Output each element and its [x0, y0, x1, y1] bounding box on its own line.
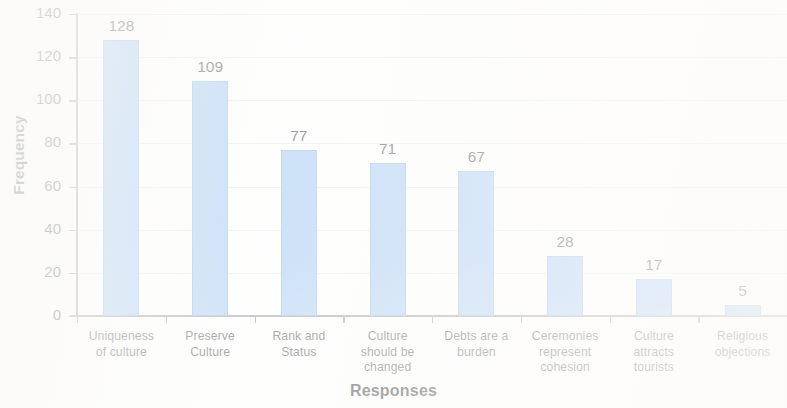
x-category-label-line: Debts are a [432, 329, 521, 345]
bar-fill [282, 151, 316, 315]
bar [103, 40, 139, 316]
y-tick-mark [69, 57, 77, 58]
x-category-label-line: Rank and [255, 329, 344, 345]
x-category-label-line: attracts [610, 345, 699, 361]
y-tick-label: 40 [0, 220, 61, 237]
bar [281, 150, 317, 316]
y-tick-mark [69, 316, 77, 317]
x-tick-mark [343, 316, 344, 323]
y-tick-label: 0 [0, 306, 61, 323]
y-tick-mark [69, 187, 77, 188]
x-category-label: Ceremoniesrepresentcohesion [521, 329, 610, 376]
y-tick-mark [69, 100, 77, 101]
y-tick-mark [69, 14, 77, 15]
bar-fill [104, 41, 138, 315]
bar-value-label: 17 [614, 256, 694, 274]
bar-fill [371, 164, 405, 315]
x-tick-mark [698, 316, 699, 323]
x-category-label-line: cohesion [521, 360, 610, 376]
x-axis-title: Responses [0, 382, 787, 400]
x-tick-mark [255, 316, 256, 323]
x-category-label-line: objections [698, 345, 787, 361]
x-category-label-line: should be [343, 345, 432, 361]
x-category-label-line: Culture [166, 345, 255, 361]
gridline [77, 230, 787, 231]
x-tick-mark [432, 316, 433, 323]
bar-fill [726, 306, 760, 315]
x-category-label-line: Ceremonies [521, 329, 610, 345]
bar [725, 305, 761, 316]
bar [192, 81, 228, 316]
bar-value-label: 109 [170, 58, 250, 76]
bar-fill [193, 82, 227, 315]
bar-fill [637, 280, 671, 315]
x-category-label-line: Status [255, 345, 344, 361]
y-tick-label: 60 [0, 177, 61, 194]
x-category-label: Cultureshould bechanged [343, 329, 432, 376]
x-category-label-line: Culture [343, 329, 432, 345]
x-category-label-line: Preserve [166, 329, 255, 345]
x-category-label: PreserveCulture [166, 329, 255, 360]
bar-chart-figure: Frequency 140120100806040200 12810977716… [0, 0, 787, 408]
bar-value-label: 28 [525, 233, 605, 251]
y-tick-label: 80 [0, 133, 61, 150]
y-tick-mark [69, 273, 77, 274]
bar [636, 279, 672, 316]
x-category-label-line: Religious [698, 329, 787, 345]
y-tick-label: 120 [0, 47, 61, 64]
gridline [77, 143, 787, 144]
x-category-label: Cultureattractstourists [610, 329, 699, 376]
y-tick-label: 20 [0, 263, 61, 280]
gridline [77, 187, 787, 188]
bar-value-label: 71 [348, 140, 428, 158]
x-axis-line [70, 315, 787, 317]
x-tick-mark [166, 316, 167, 323]
x-category-label-line: changed [343, 360, 432, 376]
bar [458, 171, 494, 316]
y-tick-mark [69, 143, 77, 144]
x-tick-mark [610, 316, 611, 323]
bar-value-label: 67 [436, 148, 516, 166]
x-category-label-line: of culture [77, 345, 166, 361]
x-category-label-line: represent [521, 345, 610, 361]
x-category-label-line: Culture [610, 329, 699, 345]
gridline [77, 14, 787, 15]
y-tick-mark [69, 230, 77, 231]
gridline [77, 100, 787, 101]
x-category-label: Debts are aburden [432, 329, 521, 360]
x-category-label-line: Uniqueness [77, 329, 166, 345]
x-category-label: Rank andStatus [255, 329, 344, 360]
bar-value-label: 77 [259, 127, 339, 145]
x-category-label-line: burden [432, 345, 521, 361]
x-category-label: Uniquenessof culture [77, 329, 166, 360]
y-axis-title: Frequency [10, 95, 28, 215]
x-tick-mark [77, 316, 78, 323]
bar-value-label: 5 [703, 282, 783, 300]
x-category-label-line: tourists [610, 360, 699, 376]
y-tick-label: 140 [0, 4, 61, 21]
bar-fill [459, 172, 493, 315]
x-category-label: Religiousobjections [698, 329, 787, 360]
y-axis-line [76, 13, 78, 317]
x-tick-mark [521, 316, 522, 323]
y-tick-label: 100 [0, 90, 61, 107]
bar [370, 163, 406, 316]
bar [547, 256, 583, 316]
bar-value-label: 128 [81, 17, 161, 35]
bar-fill [548, 257, 582, 315]
